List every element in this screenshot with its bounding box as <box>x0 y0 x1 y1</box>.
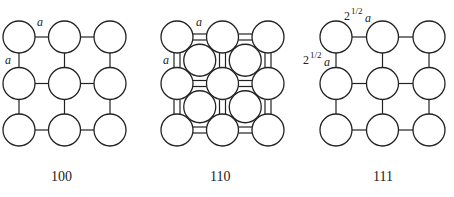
svg-text:1/2: 1/2 <box>351 6 363 16</box>
atom <box>320 68 352 100</box>
atom <box>252 114 284 146</box>
atom <box>320 21 352 53</box>
atom <box>161 114 193 146</box>
atom <box>161 21 193 53</box>
panel-111-caption: 111 <box>373 169 393 184</box>
inner-atom <box>184 44 216 76</box>
svg-text:2: 2 <box>344 9 350 23</box>
panel-111-vertical-spacing-label: 2 1/2 a <box>303 50 330 69</box>
svg-text:a: a <box>365 11 371 25</box>
panel-110-horizontal-spacing-label: a <box>196 15 202 29</box>
atom <box>3 21 35 53</box>
inner-atom <box>184 91 216 123</box>
atom <box>367 21 399 53</box>
atom <box>252 68 284 100</box>
atom <box>367 114 399 146</box>
atom <box>94 114 126 146</box>
panel-100-horizontal-spacing-label: a <box>37 15 43 29</box>
atom <box>49 114 81 146</box>
atom <box>161 68 193 100</box>
atom <box>49 68 81 100</box>
crystal-planes-diagram: a a 100 a a 110 2 1/2 a 2 1/2 a 111 <box>0 0 454 197</box>
atom <box>3 68 35 100</box>
atom <box>413 21 445 53</box>
panel-100 <box>3 21 126 146</box>
atom <box>252 21 284 53</box>
inner-atom <box>229 44 261 76</box>
panel-110 <box>161 21 284 146</box>
svg-text:2: 2 <box>303 53 309 67</box>
atom <box>94 21 126 53</box>
panel-110-caption: 110 <box>210 169 230 184</box>
panel-111 <box>320 21 445 146</box>
atom <box>49 21 81 53</box>
atom <box>320 114 352 146</box>
atom <box>367 68 399 100</box>
atom <box>207 114 239 146</box>
atom <box>94 68 126 100</box>
svg-text:a: a <box>324 55 330 69</box>
inner-atom <box>229 91 261 123</box>
atom <box>413 68 445 100</box>
panel-100-caption: 100 <box>51 169 72 184</box>
atom <box>207 21 239 53</box>
atom <box>207 68 239 100</box>
panel-111-horizontal-spacing-label: 2 1/2 a <box>344 6 371 25</box>
panel-100-vertical-spacing-label: a <box>5 53 11 67</box>
panel-110-vertical-spacing-label: a <box>163 53 169 67</box>
svg-text:1/2: 1/2 <box>310 50 322 60</box>
atom <box>3 114 35 146</box>
atom <box>413 114 445 146</box>
